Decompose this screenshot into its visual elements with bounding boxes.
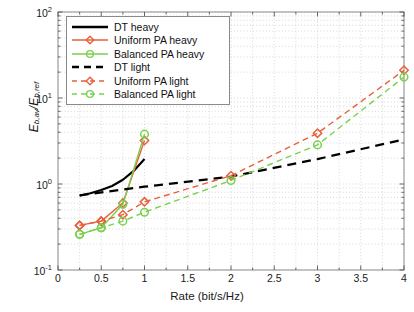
series-line-2 [80,134,145,234]
legend-item: Balanced PA light [71,88,224,102]
legend-swatch [71,61,109,73]
legend-label: Uniform PA heavy [114,34,197,46]
legend-label: Uniform PA light [114,75,189,87]
x-tick-label: 0 [55,272,61,284]
legend-label: Balanced PA light [114,88,196,100]
legend-item: DT light [71,61,224,75]
legend-swatch [71,21,109,33]
legend-swatch [71,88,109,100]
x-tick-label: 1 [142,272,148,284]
x-tick-label: 4 [401,272,407,284]
legend-item: Uniform PA heavy [71,34,224,48]
legend-label: Balanced PA heavy [114,48,204,60]
legend-swatch [71,48,109,60]
x-tick-label: 0.5 [94,272,109,284]
legend-item: Uniform PA light [71,74,224,88]
x-tick-label: 1.5 [180,272,195,284]
legend-label: DT heavy [114,21,159,33]
legend-item: DT heavy [71,20,224,34]
legend-swatch [71,34,109,46]
y-axis-label: Eb,av/Eb,ref [27,47,41,167]
x-tick-label: 3 [315,272,321,284]
y-tick-label: 102 [18,5,52,19]
legend-swatch [71,75,109,87]
figure-container: Eb,av/Eb,ref Rate (bit/s/Hz) 00.511.522.… [0,0,414,312]
y-tick-label: 100 [18,177,52,191]
x-tick-label: 2 [228,272,234,284]
y-axis-label-text: Eb,av/Eb,ref [27,82,41,133]
y-tick-label: 10-1 [18,263,52,277]
series-line-1 [80,141,145,226]
x-tick-label: 2.5 [267,272,282,284]
legend-item: Balanced PA heavy [71,47,224,61]
y-tick-label: 101 [18,91,52,105]
legend: DT heavyUniform PA heavyBalanced PA heav… [66,16,230,105]
legend-label: DT light [114,61,150,73]
x-tick-label: 3.5 [353,272,368,284]
x-axis-label: Rate (bit/s/Hz) [0,290,414,302]
